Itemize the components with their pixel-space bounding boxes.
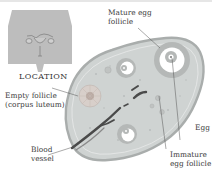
- developing-follicle-lower: [117, 124, 137, 144]
- label-blood-vessel: Blood vessel: [31, 146, 54, 163]
- location-caption: LOCATION: [19, 72, 68, 81]
- label-mature-egg-follicle: Mature egg follicle: [108, 9, 152, 26]
- developing-follicle: [116, 58, 136, 78]
- location-inset: [8, 10, 72, 72]
- ovary: [66, 38, 204, 160]
- label-immature-egg-follicle: Immature egg follicle: [170, 151, 211, 168]
- label-empty-follicle: Empty follicle (corpus luteum): [5, 92, 65, 109]
- label-egg: Egg: [195, 124, 210, 133]
- corpus-luteum: [79, 85, 101, 107]
